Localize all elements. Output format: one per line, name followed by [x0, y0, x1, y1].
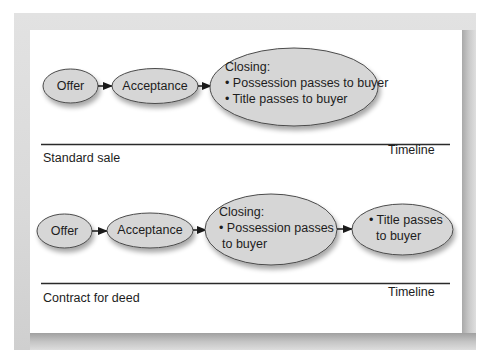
section-caption-contract-for-deed: Contract for deed — [43, 291, 140, 305]
section-caption-standard-sale: Standard sale — [43, 151, 120, 165]
timeline-label-2: Timeline — [388, 285, 435, 299]
closing-title-1: Closing: — [225, 60, 270, 75]
closing-line-possession-2: • Possession passes — [219, 221, 334, 236]
timeline-label-1: Timeline — [388, 143, 435, 157]
title-transfer-line-2: to buyer — [376, 229, 421, 244]
closing-bullet-possession-1: • Possession passes to buyer — [225, 76, 389, 91]
acceptance-label-1: Acceptance — [112, 79, 198, 94]
closing-bullet-title-1: • Title passes to buyer — [225, 92, 348, 107]
acceptance-label-2: Acceptance — [107, 223, 193, 238]
closing-line-to-buyer-2: to buyer — [222, 237, 267, 252]
offer-label-1: Offer — [43, 79, 98, 94]
title-transfer-line-1: • Title passes — [369, 213, 443, 228]
closing-title-2: Closing: — [219, 205, 264, 220]
offer-label-2: Offer — [37, 224, 92, 239]
